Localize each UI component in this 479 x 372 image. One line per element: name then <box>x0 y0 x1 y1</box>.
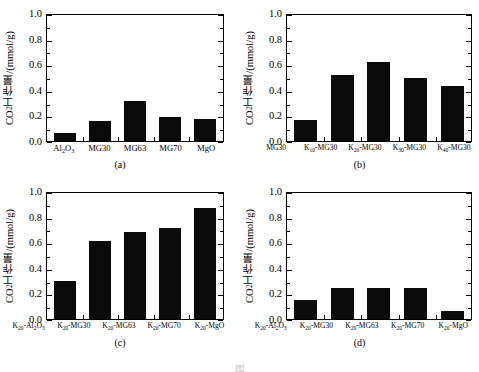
y-tick-mark-right <box>466 41 471 42</box>
x-tick-mark <box>324 315 325 319</box>
y-tick-label: 0.6 <box>29 60 42 71</box>
y-tick-labels-b: 0.00.20.40.60.81.0 <box>256 14 282 142</box>
x-tick-label: MG70 <box>153 144 189 153</box>
panel-tag-b: (b) <box>240 160 479 170</box>
y-minor-tick <box>287 283 290 284</box>
y-minor-tick <box>47 257 50 258</box>
y-tick-mark <box>47 193 52 194</box>
panel-d: CO2工作量/(mmol/g) 0.00.20.40.60.81.0 K20-A… <box>240 180 479 356</box>
bar <box>331 288 354 320</box>
y-minor-tick <box>287 105 290 106</box>
y-minor-tick-right <box>220 130 223 131</box>
y-minor-tick-right <box>468 28 471 29</box>
x-tick-label: MG30 <box>254 144 298 152</box>
y-minor-tick-right <box>468 53 471 54</box>
bars-c <box>47 193 223 319</box>
x-tick-labels-d: K20-Al2O3K20-MG30K20-MG63K20-MG70K20-MgO <box>248 322 476 330</box>
x-tick-labels-b: MG30K10-MG30K20-MG30K30-MG30K40-MG30 <box>254 144 476 152</box>
y-tick-mark <box>47 15 52 16</box>
x-tick-label: K20-MG63 <box>339 322 385 330</box>
y-minor-tick-right <box>468 79 471 80</box>
x-tick-label: K20-Al2O3 <box>248 322 294 330</box>
y-minor-tick <box>47 28 50 29</box>
y-tick-label: 1.0 <box>269 187 282 198</box>
y-tick-mark <box>47 142 52 143</box>
x-tick-label: MG63 <box>117 144 153 153</box>
y-tick-mark-right <box>466 92 471 93</box>
y-minor-tick <box>47 206 50 207</box>
y-tick-label: 0.2 <box>29 111 42 122</box>
y-tick-mark <box>47 295 52 296</box>
figure-bar-chart-grid: CO2工作量/(mmol/g) 0.00.20.40.60.81.0 Al2O3… <box>0 0 479 372</box>
y-tick-mark <box>287 92 292 93</box>
y-tick-mark-right <box>466 15 471 16</box>
y-minor-tick <box>287 231 290 232</box>
bar <box>404 78 427 141</box>
y-tick-label: 1.0 <box>29 187 42 198</box>
y-minor-tick-right <box>220 28 223 29</box>
bar <box>194 119 216 141</box>
y-minor-tick <box>47 105 50 106</box>
y-tick-label: 0.2 <box>269 289 282 300</box>
y-tick-mark <box>287 219 292 220</box>
x-tick-label: K20-MG63 <box>96 322 141 330</box>
y-minor-tick-right <box>220 231 223 232</box>
bar <box>124 101 146 141</box>
y-tick-labels-d: 0.00.20.40.60.81.0 <box>256 192 282 320</box>
y-tick-mark-right <box>218 142 223 143</box>
y-minor-tick-right <box>220 105 223 106</box>
y-tick-mark <box>287 142 292 143</box>
x-tick-label: MG30 <box>82 144 118 153</box>
y-tick-mark <box>47 117 52 118</box>
y-tick-mark-right <box>218 117 223 118</box>
y-minor-tick-right <box>220 206 223 207</box>
y-tick-mark <box>47 270 52 271</box>
x-tick-mark <box>436 137 437 141</box>
y-minor-tick <box>287 130 290 131</box>
y-minor-tick-right <box>220 283 223 284</box>
x-tick-mark <box>399 137 400 141</box>
bars-d <box>287 193 471 319</box>
x-tick-label: K20-MgO <box>430 322 476 330</box>
plot-area-a <box>46 14 224 142</box>
y-tick-mark <box>47 41 52 42</box>
y-tick-mark-right <box>218 295 223 296</box>
plot-area-c <box>46 192 224 320</box>
y-tick-mark-right <box>466 66 471 67</box>
x-tick-label: Al2O3 <box>46 144 82 153</box>
bar <box>294 300 317 319</box>
x-tick-labels-c: K20-Al2O3K20-MG30K20-MG63K20-MG70K20-MgO <box>6 322 232 330</box>
y-minor-tick <box>287 308 290 309</box>
y-tick-mark-right <box>218 193 223 194</box>
x-tick-label: MgO <box>188 144 224 153</box>
y-minor-tick <box>287 257 290 258</box>
y-tick-label: 0.8 <box>269 212 282 223</box>
y-tick-label: 0.4 <box>29 86 42 97</box>
x-tick-labels-a: Al2O3MG30MG63MG70MgO <box>46 144 224 153</box>
y-tick-mark <box>47 219 52 220</box>
x-tick-label: K20-MG30 <box>51 322 96 330</box>
y-tick-mark-right <box>466 270 471 271</box>
y-tick-label: 0.4 <box>269 264 282 275</box>
y-minor-tick <box>47 130 50 131</box>
y-minor-tick <box>287 79 290 80</box>
x-tick-mark <box>399 315 400 319</box>
y-tick-mark <box>287 320 292 321</box>
bar <box>367 62 390 141</box>
x-tick-mark <box>361 315 362 319</box>
y-tick-mark-right <box>218 219 223 220</box>
y-tick-mark-right <box>218 15 223 16</box>
bar <box>159 117 181 141</box>
x-tick-mark <box>324 137 325 141</box>
bar <box>89 241 111 319</box>
x-tick-mark <box>189 315 190 319</box>
y-tick-mark <box>287 270 292 271</box>
bar <box>404 288 427 320</box>
y-tick-mark <box>47 244 52 245</box>
y-tick-mark-right <box>466 117 471 118</box>
y-tick-mark-right <box>218 92 223 93</box>
y-tick-mark-right <box>218 270 223 271</box>
y-tick-mark <box>287 193 292 194</box>
y-minor-tick <box>287 28 290 29</box>
bar <box>124 232 146 319</box>
